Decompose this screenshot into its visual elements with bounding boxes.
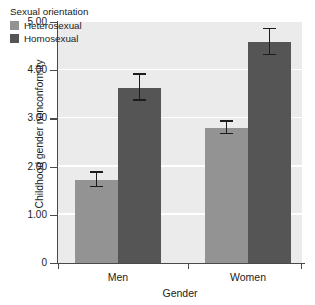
x-axis-tick [58, 263, 59, 269]
x-axis-tick [188, 263, 189, 269]
y-axis-tick-label: 3.00 [7, 112, 47, 123]
y-axis-tick-label: 1.00 [7, 209, 47, 220]
bar [75, 180, 118, 263]
legend-item: Heterosexual [10, 20, 88, 31]
y-axis-tick [50, 167, 57, 168]
y-axis-line [57, 21, 58, 264]
legend: Sexual orientation HeterosexualHomosexua… [6, 4, 92, 49]
legend-title: Sexual orientation [10, 6, 88, 17]
bar [205, 128, 248, 263]
chart-figure: Childhood gender nonconformity Gender 01… [0, 0, 315, 305]
error-bar-cap [90, 186, 103, 188]
y-axis-tick-label: 2.00 [7, 161, 47, 172]
x-axis-tick [301, 263, 302, 269]
bar [118, 88, 161, 263]
error-bar [139, 75, 141, 101]
error-bar-cap [220, 133, 233, 135]
error-bar-cap [220, 120, 233, 122]
legend-swatch-icon [10, 21, 19, 30]
y-axis-tick-label: 4.00 [7, 64, 47, 75]
x-axis-title: Gender [58, 287, 302, 299]
legend-swatch-icon [10, 34, 19, 43]
legend-entries: HeterosexualHomosexual [10, 20, 88, 44]
error-bar-cap [263, 28, 276, 30]
x-axis-line [55, 263, 305, 264]
error-bar-cap [90, 171, 103, 173]
y-axis-tick [50, 118, 57, 119]
legend-item-label: Homosexual [24, 33, 78, 44]
plot-area [58, 22, 302, 263]
x-axis-tick-label: Men [83, 271, 153, 283]
legend-item: Homosexual [10, 33, 88, 44]
error-bar-cap [263, 54, 276, 56]
x-axis-tick-label: Women [213, 271, 283, 283]
error-bar [269, 29, 271, 55]
y-axis-tick [50, 215, 57, 216]
error-bar-cap [133, 99, 146, 101]
legend-item-label: Heterosexual [24, 20, 82, 31]
y-axis-tick [50, 263, 57, 264]
bar [248, 42, 291, 263]
y-axis-tick-label: 0 [7, 257, 47, 268]
error-bar-cap [133, 73, 146, 75]
y-axis-tick [50, 70, 57, 71]
